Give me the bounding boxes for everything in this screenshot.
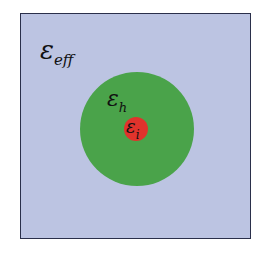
label-epsilon-eff: εeff	[40, 37, 73, 63]
label-epsilon-h: εh	[107, 88, 127, 110]
subscript-h: h	[119, 100, 127, 115]
label-epsilon-i: εi	[126, 118, 140, 136]
epsilon-symbol: ε	[40, 35, 54, 65]
epsilon-symbol: ε	[126, 116, 136, 137]
subscript-eff: eff	[54, 51, 74, 69]
subscript-i: i	[136, 128, 140, 142]
epsilon-symbol: ε	[107, 86, 119, 111]
